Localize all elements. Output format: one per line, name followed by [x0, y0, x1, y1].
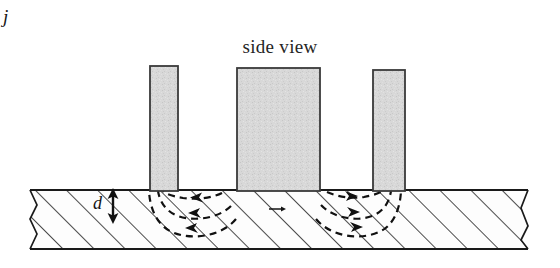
figure-title: side view	[0, 36, 560, 58]
right-electrode	[373, 70, 405, 191]
center-electrode	[237, 68, 320, 191]
left-electrode	[150, 66, 178, 191]
current-density-label-j: j	[3, 6, 8, 28]
substrate-hatch-fill	[30, 190, 528, 249]
side-view-figure: side view d j	[0, 0, 560, 268]
substrate-body	[30, 190, 528, 249]
electrode-group	[150, 66, 405, 191]
thickness-label-d: d	[93, 193, 102, 214]
